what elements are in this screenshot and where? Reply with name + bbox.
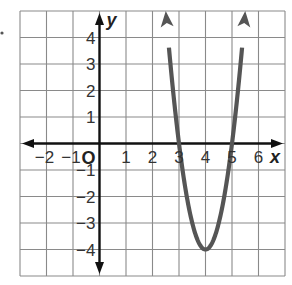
- x-tick-label: 6: [254, 148, 263, 167]
- y-tick-label: −4: [76, 241, 95, 260]
- x-tick-label: 2: [148, 148, 157, 167]
- y-tick-label: 1: [86, 108, 95, 127]
- y-axis-label: y: [105, 10, 117, 30]
- origin-label: O: [81, 148, 95, 168]
- x-tick-label: 5: [227, 148, 236, 167]
- curve-left-arrow-icon: [161, 11, 174, 28]
- y-axis-up-arrow-icon: [95, 13, 104, 25]
- curve-right-arrow-icon: [237, 11, 250, 28]
- y-tick-label: 2: [86, 82, 95, 101]
- parabola-graph: −2−11234564321−1−2−3−4Oxy: [0, 0, 292, 285]
- x-tick-label: 4: [201, 148, 210, 167]
- y-tick-label: 3: [86, 55, 95, 74]
- y-tick-label: 4: [86, 29, 95, 48]
- x-tick-label: 3: [174, 148, 183, 167]
- tick-labels: −2−11234564321−1−2−3−4Oxy: [35, 10, 281, 260]
- x-axis-label: x: [269, 147, 281, 167]
- y-tick-label: −2: [76, 188, 95, 207]
- y-axis-down-arrow-icon: [95, 262, 104, 274]
- problem-bullet-dot: [0, 31, 3, 34]
- y-tick-label: −3: [76, 214, 95, 233]
- x-tick-label: −2: [35, 148, 54, 167]
- x-tick-label: 1: [121, 148, 130, 167]
- x-axis-left-arrow-icon: [22, 139, 34, 148]
